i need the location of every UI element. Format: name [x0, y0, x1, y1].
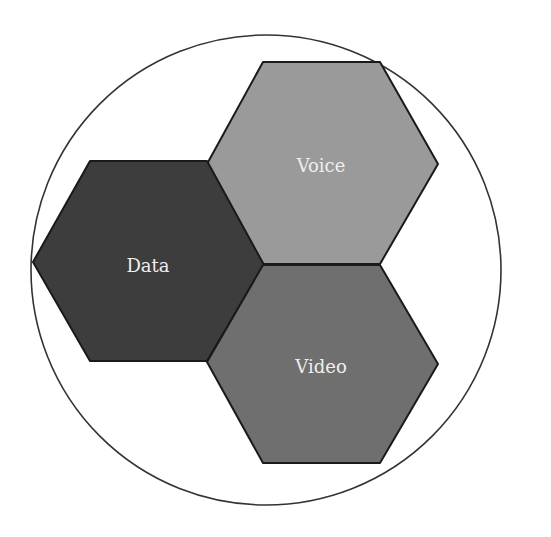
hexagon-label-data: Data	[126, 255, 169, 276]
hexagon-diagram: VoiceDataVideo	[0, 0, 551, 537]
hexagon-label-video: Video	[294, 356, 346, 377]
hexagon-label-voice: Voice	[296, 155, 346, 176]
